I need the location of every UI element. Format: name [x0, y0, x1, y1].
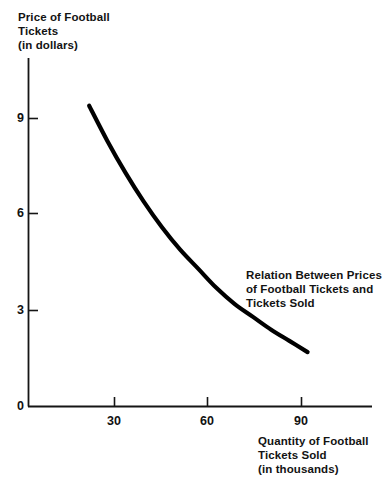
chart-plot-area	[0, 0, 387, 484]
axes-group	[28, 58, 372, 407]
demand-curve-path	[89, 106, 307, 352]
y-tick-marks-group	[29, 119, 38, 311]
chart-figure: Price of FootballTickets(in dollars) Rel…	[0, 0, 387, 484]
x-tick-marks-group	[115, 397, 302, 406]
